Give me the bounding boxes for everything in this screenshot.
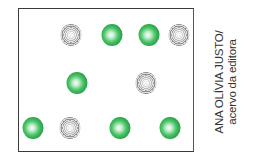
green-sphere bbox=[102, 24, 123, 46]
green-sphere bbox=[110, 117, 131, 139]
gray-sphere bbox=[136, 72, 157, 94]
image-credit: ANA OLÍVIA JUSTO/ acervo da editora bbox=[213, 12, 239, 152]
green-sphere bbox=[67, 72, 88, 94]
credit-author: ANA OLÍVIA JUSTO/ bbox=[213, 12, 226, 152]
green-sphere bbox=[139, 24, 160, 46]
green-sphere bbox=[160, 117, 181, 139]
green-sphere bbox=[23, 117, 44, 139]
gray-sphere bbox=[169, 24, 190, 46]
gray-sphere bbox=[60, 117, 81, 139]
credit-source: acervo da editora bbox=[226, 12, 239, 152]
gray-sphere bbox=[61, 24, 82, 46]
